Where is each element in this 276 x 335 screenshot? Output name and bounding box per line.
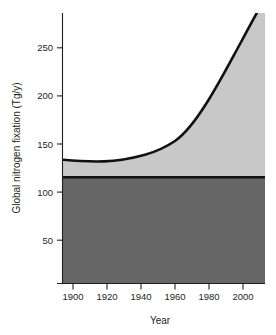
x-tick-label-1900: 1900 [62, 291, 83, 302]
y-tick-label-150: 150 [37, 139, 53, 150]
x-axis-title: Year [150, 315, 171, 326]
x-tick-label-1980: 1980 [198, 291, 219, 302]
chart-figure: 250 200 150 100 50 1900 1920 1940 1960 1… [0, 0, 276, 335]
x-tick-label-1920: 1920 [96, 291, 117, 302]
y-tick-label-100: 100 [37, 187, 53, 198]
x-tick-label-2000: 2000 [232, 291, 253, 302]
y-tick-label-50: 50 [42, 235, 53, 246]
x-tick-label-1960: 1960 [164, 291, 185, 302]
natural-fixation-area [63, 178, 265, 284]
y-axis-title: Global nitrogen fixation (Tg/y) [11, 82, 22, 213]
nitrogen-fixation-chart: 250 200 150 100 50 1900 1920 1940 1960 1… [0, 0, 276, 335]
y-tick-label-250: 250 [37, 42, 53, 53]
x-tick-label-1940: 1940 [130, 291, 151, 302]
y-tick-label-200: 200 [37, 90, 53, 101]
